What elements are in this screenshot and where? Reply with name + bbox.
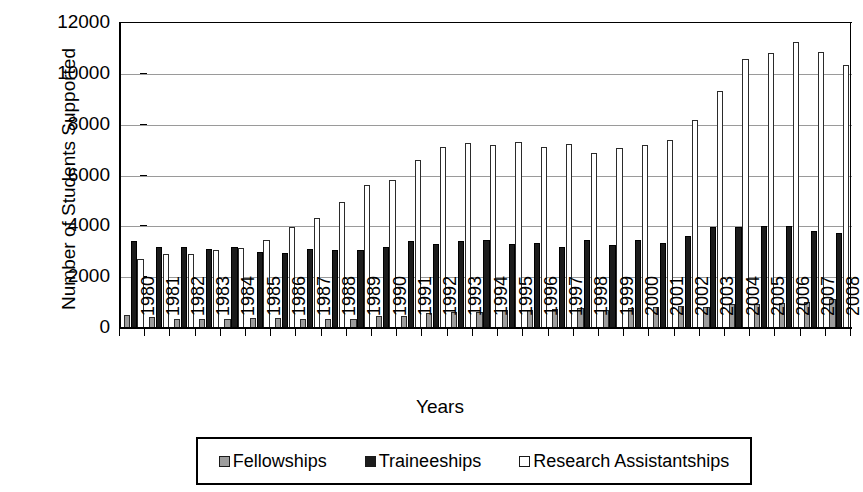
x-axis-tick-mark [119,329,120,336]
y-axis-tick-label: 8000 [28,114,110,133]
x-axis-tick-label: 1997 [567,276,585,338]
legend-item[interactable]: Traineeships [365,451,481,472]
x-axis-tick-label: 1995 [517,276,535,338]
x-axis-tick-label: 1991 [416,276,434,338]
x-axis-tick-label: 1984 [239,276,257,338]
x-axis-tick-label: 1988 [340,276,358,338]
x-axis-tick-label: 2008 [844,276,862,338]
y-axis-tick-label: 2000 [28,266,110,285]
x-axis-tick-label: 1999 [618,276,636,338]
x-axis-tick-label: 1993 [466,276,484,338]
x-axis-tick-label: 1980 [139,276,157,338]
y-axis-tick-label: 12000 [28,12,110,31]
x-axis-tick-label: 1987 [315,276,333,338]
x-axis-tick-label: 1982 [189,276,207,338]
x-axis-tick-label: 2007 [819,276,837,338]
x-axis-tick-label: 1985 [265,276,283,338]
legend-item-label: Research Assistantships [533,451,729,472]
x-axis-title: Years [370,396,510,418]
y-axis-tick-label: 6000 [28,165,110,184]
legend-item[interactable]: Research Assistantships [519,451,729,472]
y-axis-tick-label: 0 [28,317,110,336]
x-axis-tick-label: 2004 [744,276,762,338]
y-axis-tick-label: 4000 [28,215,110,234]
x-axis-tick-label: 1981 [164,276,182,338]
x-axis-tick-label: 2001 [668,276,686,338]
x-axis-tick-label: 1989 [365,276,383,338]
legend-item-label: Traineeships [379,451,481,472]
legend-item-label: Fellowships [233,451,327,472]
x-axis-tick-label: 2005 [769,276,787,338]
traineeships-swatch [365,456,376,467]
x-axis-tick-label: 1986 [290,276,308,338]
legend-item[interactable]: Fellowships [219,451,327,472]
x-axis-tick-label: 1994 [492,276,510,338]
x-axis-tick-label: 2002 [693,276,711,338]
x-axis-tick-label: 1998 [592,276,610,338]
y-axis-tick-labels: 020004000600080001000012000 [28,0,110,340]
x-axis-tick-label: 1996 [542,276,560,338]
x-axis-tick-label: 1990 [391,276,409,338]
x-axis-tick-label: 2003 [718,276,736,338]
x-axis-tick-label: 2000 [643,276,661,338]
research-assistantships-swatch [519,456,530,467]
fellowships-swatch [219,456,230,467]
x-axis-tick-label: 1983 [214,276,232,338]
x-axis-tick-label: 2006 [794,276,812,338]
x-axis-tick-label: 1992 [441,276,459,338]
chart-legend: FellowshipsTraineeshipsResearch Assistan… [196,437,752,485]
y-axis-tick-label: 10000 [28,63,110,82]
bar-traineeships-1980 [131,241,137,328]
